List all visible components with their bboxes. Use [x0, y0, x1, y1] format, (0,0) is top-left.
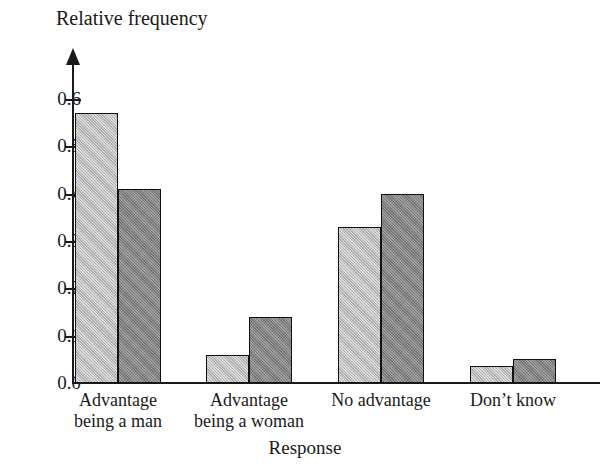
x-category-label-line1: No advantage — [331, 390, 430, 410]
x-axis-title: Response — [0, 437, 610, 459]
bar-chart-figure: Relative frequency 0.00.10.20.30.40.50.6… — [0, 0, 610, 471]
bar-series-b-3 — [513, 359, 556, 383]
x-category-label-line1: Don’t know — [470, 390, 556, 410]
bar-series-a-3 — [470, 366, 513, 383]
x-category-label-line2: being a woman — [169, 411, 329, 432]
x-category-label-line1: Advantage — [79, 390, 157, 410]
bar-series-b-0 — [118, 189, 161, 383]
bar-series-b-2 — [381, 194, 424, 383]
x-category-label-line1: Advantage — [210, 390, 288, 410]
bar-series-a-2 — [338, 227, 381, 383]
bar-series-a-1 — [206, 355, 249, 383]
x-category-label-3: Don’t know — [433, 390, 593, 411]
bar-series-a-0 — [75, 113, 118, 383]
bar-series-b-1 — [249, 317, 292, 383]
